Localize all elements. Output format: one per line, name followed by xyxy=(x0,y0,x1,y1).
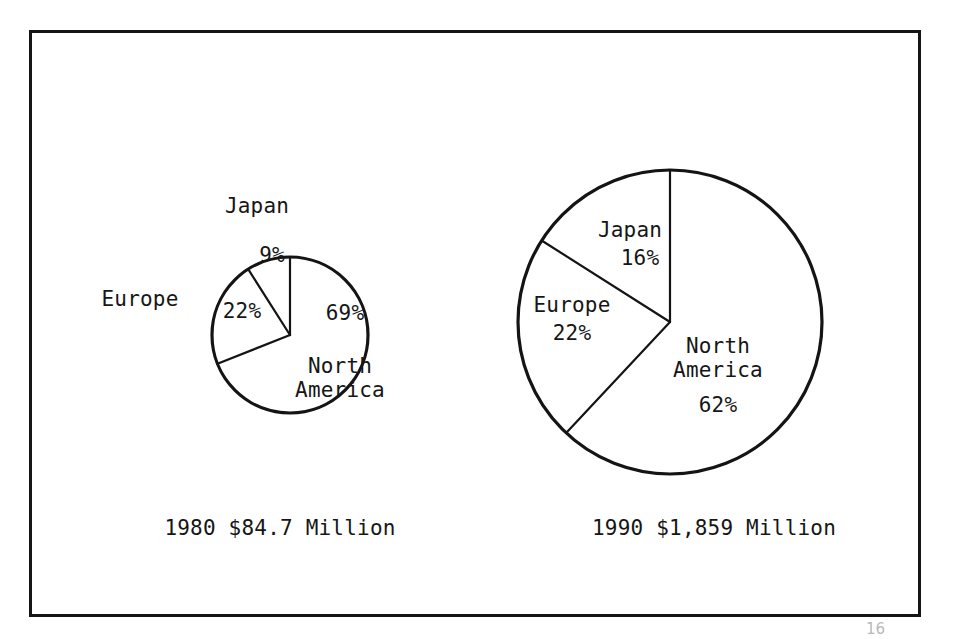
pie-1990-label-japan: Japan xyxy=(598,218,662,242)
pie-1990-caption: 1990 $1,859 Million xyxy=(592,516,836,540)
figure-root: Japan 9% Europe 22% 69% North America 19… xyxy=(0,0,955,639)
pie-1980-label-europe: Europe xyxy=(101,287,178,311)
pie-1980-value-north-america: 69% xyxy=(326,301,365,325)
pie-1990-value-north-america: 62% xyxy=(699,393,738,417)
pie-1980-label-japan: Japan xyxy=(225,194,289,218)
pie-1990-value-europe: 22% xyxy=(553,321,592,345)
pie-1980-value-europe: 22% xyxy=(223,299,262,323)
pie-1980-value-japan: 9% xyxy=(259,243,285,267)
pie-1980-caption: 1980 $84.7 Million xyxy=(164,516,395,540)
page-number-artifact: 16 xyxy=(866,620,885,638)
pie-1990-label-north-america: North America xyxy=(673,334,763,383)
pie-1980-label-north-america: North America xyxy=(295,354,385,403)
pie-1990-value-japan: 16% xyxy=(621,246,660,270)
pie-1990-label-europe: Europe xyxy=(533,293,610,317)
